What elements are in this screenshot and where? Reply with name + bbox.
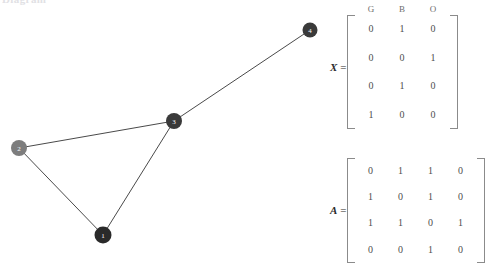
matrix-cell: 0 (418, 15, 449, 44)
matrix-row: 0010 (356, 237, 476, 263)
graph-node-2[interactable]: 2 (11, 140, 27, 156)
matrix-cell: 0 (356, 158, 386, 184)
graph-edges (19, 30, 310, 235)
matrix-cell: 1 (418, 44, 449, 73)
matrix-x-body: GBO 010001010100 (347, 4, 458, 129)
matrix-cell: 0 (356, 15, 387, 44)
matrix-cell: 0 (418, 101, 449, 130)
matrix-cell: 0 (446, 158, 476, 184)
matrix-x-name: X (330, 61, 337, 73)
matrix-cell: 0 (416, 210, 446, 236)
matrix-row: 010 (356, 15, 449, 44)
left-bracket-icon (347, 158, 355, 263)
graph-edge (103, 121, 174, 235)
matrix-cell: 1 (386, 158, 416, 184)
node-label: 2 (17, 145, 21, 153)
matrix-cell: 1 (387, 72, 418, 101)
right-bracket-icon (477, 158, 485, 263)
graph-node-3[interactable]: 3 (166, 113, 182, 129)
matrix-row: 1101 (356, 210, 476, 236)
matrix-x-header-1: B (387, 4, 418, 15)
matrix-a: A = 0110101011010010 (330, 158, 485, 263)
matrix-cell: 0 (356, 237, 386, 263)
matrix-cell: 0 (386, 184, 416, 210)
matrix-x-header-0: G (356, 4, 387, 15)
right-bracket-icon (450, 15, 458, 129)
matrix-a-bracketed: 0110101011010010 (347, 158, 485, 263)
graph-edge (174, 30, 310, 121)
matrix-x: X = GBO 010001010100 (330, 4, 458, 129)
matrix-cell: 0 (386, 237, 416, 263)
matrix-x-grid: 010001010100 (356, 15, 449, 129)
matrix-cell: 0 (387, 44, 418, 73)
matrix-cell: 1 (356, 101, 387, 130)
matrix-cell: 1 (387, 15, 418, 44)
graph-svg: 1234 (0, 0, 330, 278)
matrix-row: 001 (356, 44, 449, 73)
matrix-a-grid: 0110101011010010 (356, 158, 476, 263)
matrix-cell: 1 (386, 210, 416, 236)
matrix-x-column-headers: GBO (347, 4, 458, 15)
graph-edge (19, 148, 103, 235)
left-bracket-icon (347, 15, 355, 129)
matrix-x-header-2: O (418, 4, 449, 15)
node-label: 3 (172, 118, 176, 126)
matrix-cell: 0 (446, 237, 476, 263)
matrix-cell: 1 (356, 184, 386, 210)
graph-panel: 1234 (0, 0, 330, 278)
matrix-cell: 0 (356, 72, 387, 101)
matrix-cell: 1 (416, 237, 446, 263)
matrix-cell: 0 (446, 184, 476, 210)
matrix-cell: 0 (418, 72, 449, 101)
matrix-cell: 1 (446, 210, 476, 236)
node-label: 4 (308, 27, 312, 35)
matrix-row: 010 (356, 72, 449, 101)
matrix-row: 100 (356, 101, 449, 130)
matrix-cell: 0 (356, 44, 387, 73)
graph-node-4[interactable]: 4 (303, 23, 318, 38)
matrix-cell: 1 (416, 158, 446, 184)
matrix-cell: 1 (356, 210, 386, 236)
matrix-x-bracketed: 010001010100 (347, 15, 458, 129)
figure-canvas: Diagram 1234 X = GBO 010001010100 A = 01… (0, 0, 489, 278)
graph-edge (19, 121, 174, 148)
matrix-row: 0110 (356, 158, 476, 184)
matrix-a-name: A (330, 204, 337, 216)
graph-node-1[interactable]: 1 (95, 227, 112, 244)
matrix-a-body: 0110101011010010 (347, 158, 485, 263)
matrix-cell: 1 (416, 184, 446, 210)
matrix-row: 1010 (356, 184, 476, 210)
node-label: 1 (101, 232, 105, 240)
matrix-cell: 0 (387, 101, 418, 130)
